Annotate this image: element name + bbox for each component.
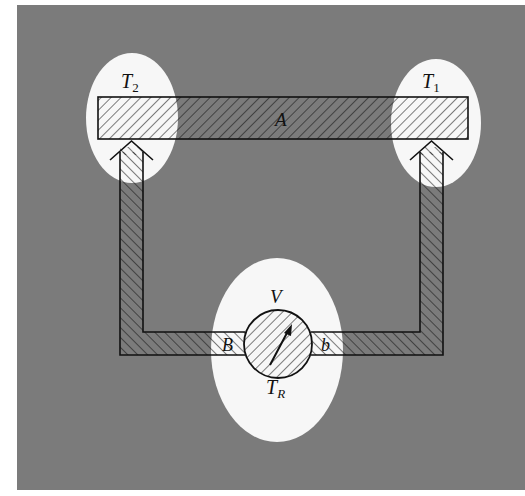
voltmeter: [244, 310, 312, 378]
figure-canvas: T2 T1 A B b V TR: [0, 0, 525, 496]
thermocouple-diagram: T2 T1 A B b V TR: [0, 0, 525, 496]
label-a: A: [273, 109, 287, 130]
label-b-left: B: [222, 335, 233, 355]
label-b-right: b: [321, 335, 330, 355]
